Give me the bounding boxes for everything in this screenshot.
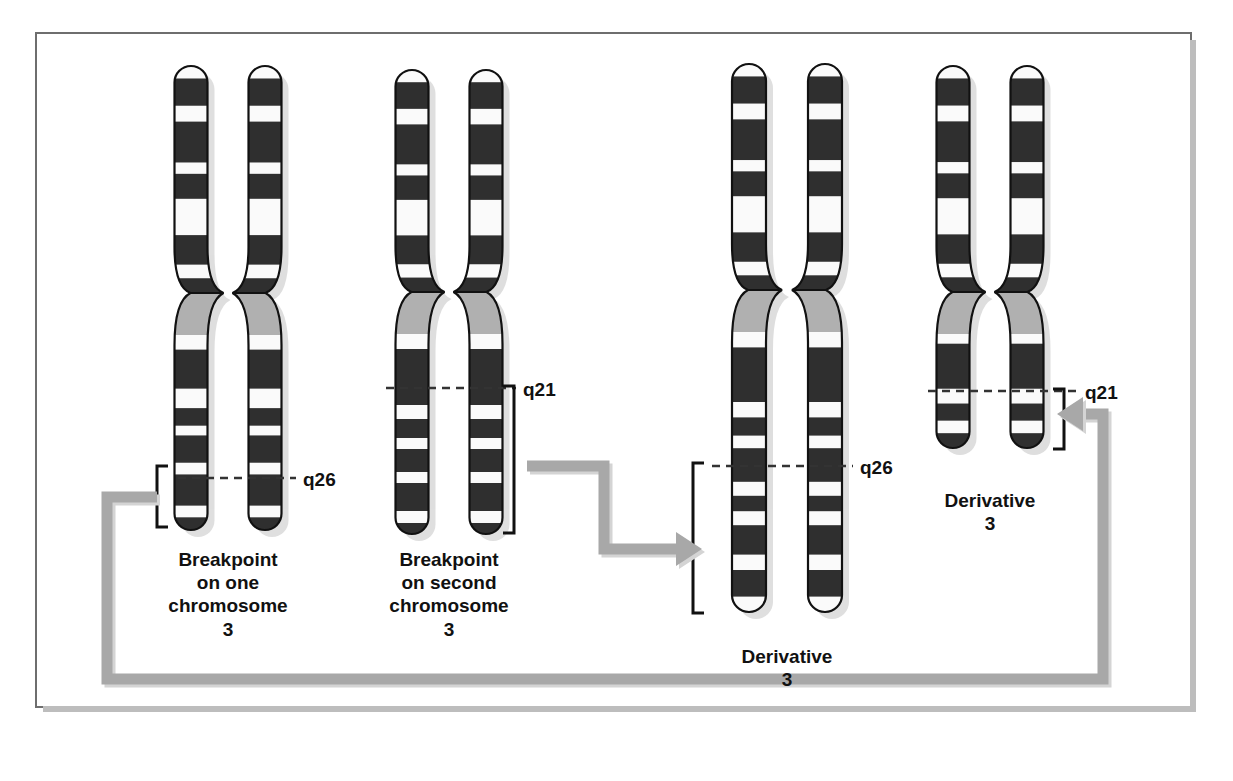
derivative-chromosome-3-long-left-q-band-9 [702, 525, 796, 554]
chromosome-pair-1-right-p-band-7 [219, 235, 312, 265]
derivative-chromosome-3-short-left-p-arm [907, 62, 1000, 296]
chromosome-pair-1-right-q-band-1 [219, 350, 312, 389]
chromosome-pair-2-left-p-band-7 [366, 235, 459, 264]
chromosome-pair-2-right-p-band-7 [440, 235, 533, 264]
chromosome-pair-2-left-q-band-5 [366, 449, 459, 472]
chromosome-pair-2-right-p-band-9 [440, 278, 533, 292]
derivative-chromosome-3-short-right-q-arm [981, 288, 1074, 452]
derivative-chromosome-3-short-band-label: q21 [1085, 381, 1118, 404]
derivative-chromosome-3-long-left-p-band-1 [702, 76, 796, 103]
derivative-chromosome-3-long-left-p-band-5 [702, 171, 796, 196]
derivative-chromosome-3-short-breakpoint-bracket [1053, 389, 1064, 449]
chromosome-pair-2-right-p-band-5 [440, 175, 533, 199]
derivative-chromosome-3-long-caption: Derivative 3 [657, 645, 917, 691]
derivative-chromosome-3-short-right-centromere [981, 288, 1074, 334]
derivative-chromosome-3-long-left-p-band-3 [702, 119, 796, 160]
derivative-chromosome-3-long-left-q-band-3 [702, 417, 796, 435]
derivative-chromosome-3-short-right-p-band-1 [981, 78, 1074, 105]
chromosome-pair-2-right-q-band-9 [440, 523, 533, 534]
derivative-chromosome-3-short-right-q-band-1 [981, 344, 1074, 389]
chromosome-pair-1-right-q-band-5 [219, 435, 312, 462]
chromosome-pair-2-left-p-band-5 [366, 175, 459, 199]
chromosome-pair-2-band-label: q21 [523, 378, 556, 401]
chromosome-pair-2-right-centromere [440, 288, 533, 334]
chromosome-pair-2-left-q-band-7 [366, 483, 459, 511]
chromosome-pair-2-left-p-band-1 [366, 82, 459, 109]
derivative-chromosome-3-short-right-p-band-7 [981, 234, 1074, 263]
derivative-chromosome-3-long-right-q-band-3 [778, 417, 872, 435]
derivative-chromosome-3-short-right-p-arm [981, 62, 1074, 296]
diagram-canvas [0, 0, 1233, 781]
derivative-chromosome-3-long-right-q-band-7 [778, 496, 872, 511]
chromosome-pair-2-right-q-arm [440, 288, 533, 538]
chromosome-pair-1-left-q-band-1 [145, 350, 238, 389]
derivative-chromosome-3-short [907, 62, 1074, 455]
derivative-chromosome-3-short-left-q-band-3 [907, 404, 1000, 421]
derivative-chromosome-3-short-left-p-band-3 [907, 121, 1000, 162]
chromosome-pair-1-left-p-band-5 [145, 174, 238, 199]
derivative-chromosome-3-short-caption: Derivative 3 [860, 489, 1120, 535]
chromosome-pair-1-right-p-arm [219, 62, 312, 297]
derivative-chromosome-3-long-left-q-band-11 [702, 570, 796, 597]
derivative-chromosome-3-short-right-p-band-5 [981, 173, 1074, 198]
chromosome-pair-1-left-p-band-1 [145, 78, 238, 105]
chromosome-pair-1-left-p-arm [145, 62, 238, 297]
chromosome-pair-1-left-p-band-3 [145, 122, 238, 163]
derivative-chromosome-3-long-right-p-band-1 [778, 76, 872, 103]
chromosome-pair-2-left-q-arm [366, 288, 459, 538]
chromosome-pair-2-left-q-band-1 [366, 349, 459, 405]
derivative-chromosome-3-long-left-p-band-9 [702, 275, 796, 290]
chromosome-pair-1-left-q-band-3 [145, 408, 238, 426]
chromosome-pair-1-left-q-band-5 [145, 435, 238, 462]
chromosome-pair-1-right-p-band-5 [219, 174, 312, 199]
chromosome-pair-2-left-p-band-9 [366, 278, 459, 292]
derivative-chromosome-3-long-right-p-arm [778, 60, 872, 294]
derivative-chromosome-3-short-left-p-band-1 [907, 78, 1000, 105]
derivative-chromosome-3-long-left-q-band-1 [702, 347, 796, 402]
chromosome-pair-1-left-p-band-7 [145, 235, 238, 265]
chromosome-pair-2-left-q-band-9 [366, 523, 459, 534]
chromosome-pair-1-right-p-band-3 [219, 122, 312, 163]
derivative-chromosome-3-long-left-q-arm [702, 286, 796, 616]
derivative-chromosome-3-short-left-q-arm [907, 288, 1000, 452]
chromosome-pair-1-left-p-band-9 [145, 278, 238, 293]
derivative-chromosome-3-long-left-p-band-7 [702, 232, 796, 261]
chromosome-pair-2-right-q-band-3 [440, 419, 533, 438]
chromosome-pair-1-right-p-band-9 [219, 278, 312, 293]
chromosome-pair-2-right-q-band-7 [440, 483, 533, 511]
chromosome-pair-2-right-p-band-3 [440, 124, 533, 164]
connector-step-middle-line [527, 466, 676, 549]
chromosome-pair-1-right-q-band-3 [219, 408, 312, 426]
chromosome-pair-2 [366, 66, 533, 541]
chromosome-pair-1-right-p-band-1 [219, 78, 312, 105]
derivative-chromosome-3-long-right-p-band-3 [778, 119, 872, 160]
derivative-chromosome-3-long-right-q-band-11 [778, 570, 872, 597]
derivative-chromosome-3-long-band-label: q26 [860, 456, 893, 479]
chromosome-pair-2-left-p-band-3 [366, 124, 459, 164]
derivative-chromosome-3-short-left-p-band-7 [907, 234, 1000, 263]
derivative-chromosome-3-short-right-q-band-3 [981, 404, 1074, 421]
derivative-chromosome-3-short-left-p-band-9 [907, 277, 1000, 292]
chromosome-pair-1-right-q-band-9 [219, 517, 312, 530]
derivative-chromosome-3-long [702, 60, 872, 619]
chromosome-pair-2-left-p-arm [366, 66, 459, 296]
chromosome-pair-1 [145, 62, 312, 537]
derivative-chromosome-3-short-left-q-band-5 [907, 433, 1000, 448]
chromosome-pair-2-right-p-band-1 [440, 82, 533, 109]
derivative-chromosome-3-short-right-q-band-5 [981, 433, 1074, 448]
derivative-chromosome-3-long-right-p-band-7 [778, 232, 872, 261]
derivative-chromosome-3-short-left-p-band-5 [907, 173, 1000, 198]
derivative-chromosome-3-long-right-q-band-1 [778, 347, 872, 402]
chromosome-pair-2-left-q-band-3 [366, 419, 459, 438]
derivative-chromosome-3-long-right-p-band-5 [778, 171, 872, 196]
chromosome-pair-1-right-centromere [219, 289, 312, 335]
chromosome-pair-2-right-p-arm [440, 66, 533, 296]
chromosome-pair-2-right-q-band-5 [440, 449, 533, 472]
derivative-chromosome-3-short-left-q-band-1 [907, 344, 1000, 389]
derivative-chromosome-3-long-right-q-arm [778, 286, 872, 616]
derivative-chromosome-3-long-left-q-band-7 [702, 496, 796, 511]
derivative-chromosome-3-long-breakpoint-bracket [693, 463, 704, 613]
chromosome-pair-2-right-q-band-1 [440, 349, 533, 405]
derivative-chromosome-3-long-left-p-arm [702, 60, 796, 294]
chromosome-pair-2-caption: Breakpoint on second chromosome 3 [319, 548, 579, 641]
